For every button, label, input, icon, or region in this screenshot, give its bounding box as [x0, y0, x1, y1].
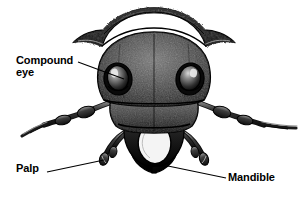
label-mandible: Mandible: [228, 172, 275, 184]
label-palp: Palp: [16, 163, 39, 175]
insect-head-illustration: [0, 0, 308, 197]
label-compound-eye: Compound eye: [16, 55, 73, 78]
